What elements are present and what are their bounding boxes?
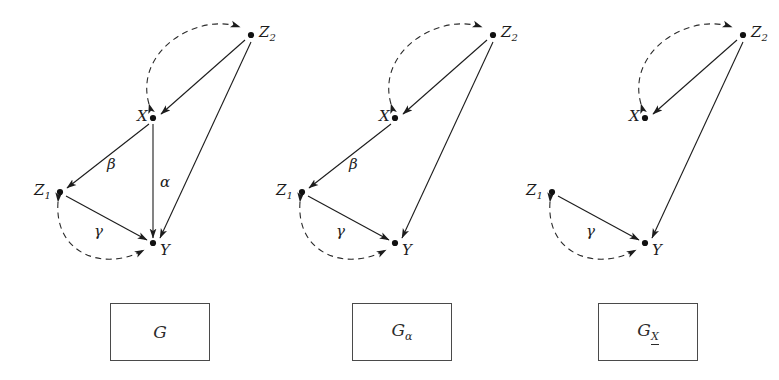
edge-label-gamma: γ xyxy=(94,224,103,239)
node-dot-x xyxy=(392,115,398,121)
node-dot-z2 xyxy=(490,32,496,38)
node-label-x: X xyxy=(379,109,390,124)
node-label-z1: Z1 xyxy=(526,183,543,201)
node-dot-x xyxy=(642,115,648,121)
edge-z2-to-y xyxy=(402,42,493,238)
node-dot-x xyxy=(150,115,156,121)
caption-label-g-alpha: Gα xyxy=(391,322,412,342)
edge-z2-to-y xyxy=(652,42,743,238)
edge-label-gamma: γ xyxy=(586,224,595,239)
edge-x-to-z2-bidirected xyxy=(639,24,732,104)
node-dot-z1 xyxy=(299,189,305,195)
node-label-z2: Z2 xyxy=(751,25,768,43)
edge-label-beta: β xyxy=(349,157,358,172)
edge-z1-to-y xyxy=(308,196,389,240)
causal-diagram-figure: Z2 --> Y --> X Z2 Z1 Y β α γ xyxy=(0,0,779,380)
caption-label-g: G xyxy=(153,324,167,341)
node-label-y: Y xyxy=(652,243,662,258)
node-label-y: Y xyxy=(160,243,170,258)
edge-z2-to-x xyxy=(653,40,737,114)
edge-label-alpha: α xyxy=(160,175,170,190)
edge-label-beta: β xyxy=(107,157,116,172)
node-label-y: Y xyxy=(402,243,412,258)
edge-label-gamma: γ xyxy=(336,224,345,239)
node-dot-z1 xyxy=(57,189,63,195)
caption-box-g-x-underbar: GX xyxy=(598,303,698,361)
graph-canvas-g-alpha xyxy=(250,0,510,290)
edge-z2-to-y xyxy=(160,42,251,238)
caption-label-g-x-underbar: GX xyxy=(637,322,658,342)
caption-box-g: G xyxy=(110,303,210,361)
graph-canvas-g-x-underbar xyxy=(500,0,760,290)
edge-z1-to-y xyxy=(66,196,147,240)
edge-z1-to-y xyxy=(558,196,639,240)
edge-x-to-z2-bidirected xyxy=(389,24,482,104)
edge-x-to-z2-bidirected xyxy=(147,24,240,104)
edge-z2-to-x xyxy=(403,40,487,114)
node-dot-z2 xyxy=(740,32,746,38)
node-dot-y xyxy=(642,240,648,246)
node-label-z1: Z1 xyxy=(276,183,293,201)
node-label-x: X xyxy=(629,109,640,124)
node-label-z1: Z1 xyxy=(34,183,51,201)
node-dot-y xyxy=(150,240,156,246)
edge-z2-to-x xyxy=(161,40,245,114)
node-dot-y xyxy=(392,240,398,246)
node-label-x: X xyxy=(137,109,148,124)
graph-canvas-g: Z2 --> Y --> xyxy=(8,0,268,290)
node-dot-z1 xyxy=(549,189,555,195)
caption-box-g-alpha: Gα xyxy=(352,303,452,361)
